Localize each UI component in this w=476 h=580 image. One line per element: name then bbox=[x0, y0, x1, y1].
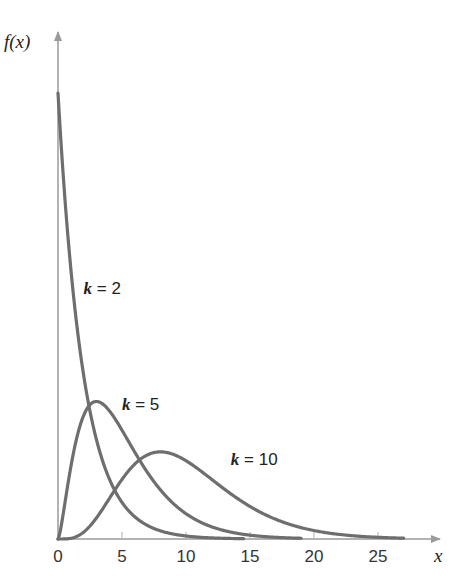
x-tick-label: 15 bbox=[241, 547, 260, 566]
x-tick-label: 10 bbox=[177, 547, 196, 566]
curve-label-k10: k = 10 bbox=[231, 450, 278, 469]
chi-square-density-chart: 0510152025 f(x) x k = 2k = 5k = 10 bbox=[0, 0, 476, 580]
y-axis-title: f(x) bbox=[4, 31, 30, 53]
curve-k2 bbox=[58, 93, 244, 539]
curve-label-k2: k = 2 bbox=[84, 279, 121, 298]
x-tick-label: 20 bbox=[305, 547, 324, 566]
curve-label-k5: k = 5 bbox=[122, 395, 159, 414]
x-tick-label: 0 bbox=[53, 547, 62, 566]
x-axis-title: x bbox=[433, 545, 443, 566]
density-curves bbox=[58, 93, 404, 539]
curve-labels: k = 2k = 5k = 10 bbox=[84, 279, 278, 469]
x-tick-label: 25 bbox=[369, 547, 388, 566]
x-tick-label: 5 bbox=[117, 547, 126, 566]
